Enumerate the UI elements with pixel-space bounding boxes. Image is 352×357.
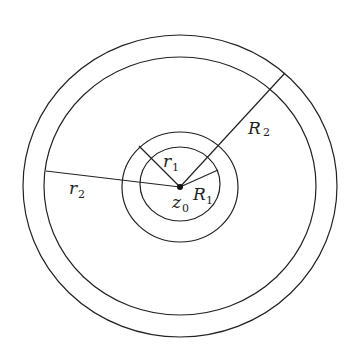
label-R2: R 2: [247, 118, 270, 139]
svg-text:z: z: [171, 192, 182, 212]
svg-text:r: r: [163, 151, 172, 171]
label-r2: r 2: [69, 178, 85, 201]
label-R1: R 1: [192, 184, 213, 207]
svg-text:R: R: [192, 184, 206, 204]
label-z0: z 0: [171, 192, 189, 215]
annulus-diagram: r 1 R 1 z 0 r 2 R 2: [0, 0, 352, 357]
svg-text:1: 1: [172, 161, 179, 174]
svg-text:2: 2: [263, 126, 270, 139]
svg-text:0: 0: [182, 202, 189, 215]
svg-text:r: r: [69, 178, 78, 198]
center-point-z0: [177, 184, 183, 190]
svg-text:1: 1: [206, 194, 213, 207]
svg-text:R: R: [247, 118, 261, 138]
svg-text:2: 2: [78, 188, 85, 201]
label-r1: r 1: [163, 151, 179, 174]
radius-r2: [46, 171, 180, 187]
